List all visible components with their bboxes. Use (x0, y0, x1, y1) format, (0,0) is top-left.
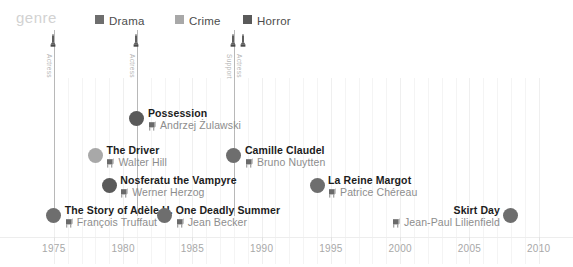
film-director: Werner Herzog (120, 186, 236, 199)
film-dot[interactable] (310, 178, 325, 193)
axis-tick (400, 237, 401, 241)
film-dot[interactable] (46, 208, 61, 223)
film-title: Skirt Day (392, 204, 500, 216)
film-label[interactable]: Nosferatu the VampyreWerner Herzog (120, 174, 236, 199)
director-name: Jean-Paul Lilienfield (404, 216, 500, 229)
axis-tick (123, 237, 124, 241)
x-axis: 19751980198519901995200020052010 (0, 237, 573, 267)
director-name: Jean Becker (188, 216, 247, 229)
film-director: Jean Becker (176, 216, 280, 229)
film-dot[interactable] (129, 111, 144, 126)
film-title: The Driver (106, 144, 167, 156)
director-chair-icon (245, 158, 253, 168)
director-name: Walter Hill (118, 156, 167, 169)
award-leader-line (54, 30, 55, 216)
film-dot[interactable] (503, 208, 518, 223)
oscar-statuette-icon (230, 34, 239, 50)
legend-title: genre (16, 9, 57, 26)
film-title: Nosferatu the Vampyre (120, 174, 236, 186)
axis-tick (262, 237, 263, 241)
axis-tick (469, 237, 470, 241)
film-title: One Deadly Summer (176, 204, 280, 216)
axis-tick-label: 2000 (388, 243, 411, 254)
director-chair-icon (148, 121, 156, 131)
legend: genre DramaCrimeHorror (0, 0, 573, 30)
director-chair-icon (65, 218, 73, 228)
axis-tick (539, 237, 540, 241)
legend-swatch-icon (175, 15, 184, 24)
director-name: François Truffaut (77, 216, 157, 229)
axis-tick (192, 237, 193, 241)
axis-tick (54, 237, 55, 241)
axis-tick (331, 237, 332, 241)
award-label: Actress (129, 54, 136, 78)
director-name: Werner Herzog (132, 186, 204, 199)
director-name: Andrzej Żulawski (160, 119, 241, 132)
director-chair-icon (328, 188, 336, 198)
director-chair-icon (106, 158, 114, 168)
director-name: Patrice Chéreau (340, 186, 417, 199)
film-dot[interactable] (102, 178, 117, 193)
film-label[interactable]: One Deadly SummerJean Becker (176, 204, 280, 229)
legend-label: Crime (189, 15, 221, 27)
director-chair-icon (392, 218, 400, 228)
legend-item-drama[interactable]: Drama (95, 11, 145, 25)
film-director: Andrzej Żulawski (148, 119, 241, 132)
oscar-statuette-icon (50, 34, 59, 50)
legend-swatch-icon (95, 15, 104, 24)
film-title: La Reine Margot (328, 174, 417, 186)
film-director: Bruno Nuytten (245, 156, 325, 169)
axis-line (0, 237, 573, 238)
film-label[interactable]: La Reine MargotPatrice Chéreau (328, 174, 417, 199)
award-label: Actress (236, 54, 243, 78)
timeline-chart: genre DramaCrimeHorror ActressActressSup… (0, 0, 573, 267)
film-dot[interactable] (88, 148, 103, 163)
director-chair-icon (120, 188, 128, 198)
axis-tick-label: 2005 (458, 243, 481, 254)
legend-label: Drama (109, 15, 145, 27)
award-label: Support (226, 54, 233, 79)
film-director: Patrice Chéreau (328, 186, 417, 199)
director-chair-icon (176, 218, 184, 228)
plot-area: ActressActressSupportActress PossessionA… (0, 30, 573, 237)
oscar-statuette-icon (133, 34, 142, 50)
axis-tick-label: 1995 (319, 243, 342, 254)
oscar-statuette-icon (240, 34, 249, 50)
legend-item-horror[interactable]: Horror (243, 11, 291, 25)
axis-tick-label: 1980 (111, 243, 134, 254)
director-name: Bruno Nuytten (257, 156, 325, 169)
axis-tick-label: 1990 (250, 243, 273, 254)
axis-tick-label: 1985 (181, 243, 204, 254)
film-title: Possession (148, 107, 241, 119)
award-label: Actress (46, 54, 53, 78)
film-label[interactable]: Camille ClaudelBruno Nuytten (245, 144, 325, 169)
legend-item-crime[interactable]: Crime (175, 11, 221, 25)
film-title: Camille Claudel (245, 144, 325, 156)
film-label[interactable]: Skirt DayJean-Paul Lilienfield (392, 204, 500, 229)
film-dot[interactable] (157, 208, 172, 223)
film-dot[interactable] (226, 148, 241, 163)
film-label[interactable]: PossessionAndrzej Żulawski (148, 107, 241, 132)
legend-label: Horror (257, 15, 291, 27)
axis-tick-label: 1975 (42, 243, 65, 254)
film-director: Walter Hill (106, 156, 167, 169)
film-label[interactable]: The DriverWalter Hill (106, 144, 167, 169)
legend-swatch-icon (243, 15, 252, 24)
film-director: Jean-Paul Lilienfield (392, 216, 500, 229)
axis-tick-label: 2010 (527, 243, 550, 254)
